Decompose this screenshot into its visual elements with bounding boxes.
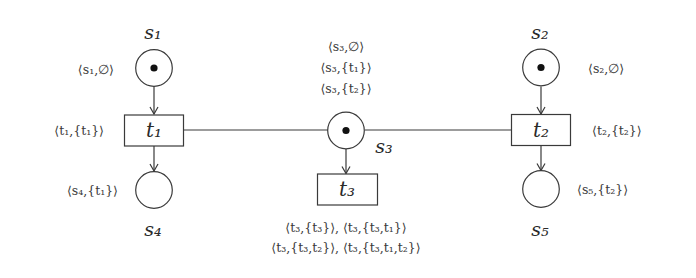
annotation-t3-0: ⟨t₃,{t₃}⟩, ⟨t₃,{t₃,t₁}⟩ [271,218,420,238]
place-s1 [136,50,173,87]
token-icon [342,127,349,134]
place-name-s5: s₅ [531,218,548,240]
annotation-s5: ⟨s₅,{t₂}⟩ [577,183,628,197]
petri-net-diagram: s₁ s₂ s₃ s₄ s₅ t₁ t₂ t₃ ⟨s₁,∅⟩ ⟨t₁,{t₁}⟩… [0,0,696,278]
token-icon [537,64,544,71]
annotation-s3-1: ⟨s₃,{t₁}⟩ [320,57,371,78]
annotation-s2: ⟨s₂,∅⟩ [588,62,624,76]
place-s4 [136,172,173,209]
annotation-s3-list: ⟨s₃,∅⟩ ⟨s₃,{t₁}⟩ ⟨s₃,{t₂}⟩ [320,36,371,99]
annotation-t3-list: ⟨t₃,{t₃}⟩, ⟨t₃,{t₃,t₁}⟩ ⟨t₃,{t₃,t₂}⟩, ⟨t… [271,218,420,258]
annotation-s3-2: ⟨s₃,{t₂}⟩ [320,78,371,99]
place-s3 [328,112,365,149]
annotation-s1: ⟨s₁,∅⟩ [78,63,114,77]
place-name-s1: s₁ [144,21,161,43]
place-s5 [523,171,560,208]
place-name-s3: s₃ [375,135,392,157]
place-name-s4: s₄ [144,218,161,240]
annotation-t3-1: ⟨t₃,{t₃,t₂}⟩, ⟨t₃,{t₃,t₁,t₂}⟩ [271,238,420,258]
transition-name-t3: t₃ [339,177,355,201]
place-name-s2: s₂ [531,21,548,43]
place-s2 [523,49,560,86]
transition-name-t2: t₂ [533,118,549,142]
annotation-t2: ⟨t₂,{t₂}⟩ [592,124,642,138]
annotation-s3-0: ⟨s₃,∅⟩ [320,36,371,57]
transition-name-t1: t₁ [146,118,162,142]
annotation-t1: ⟨t₁,{t₁}⟩ [54,124,104,138]
token-icon [150,64,157,71]
annotation-s4: ⟨s₄,{t₁}⟩ [67,184,118,198]
